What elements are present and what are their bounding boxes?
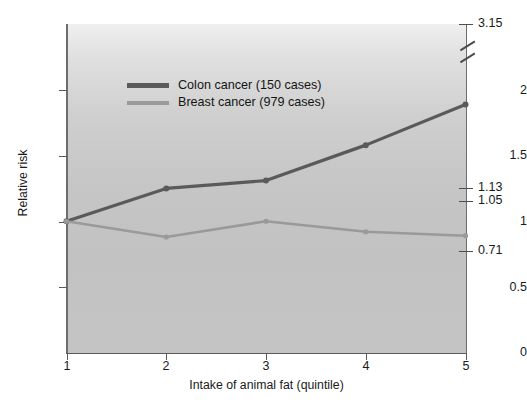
y-tick-label-1: 1 [475, 215, 527, 228]
y-tick-0p5 [59, 287, 67, 288]
y-axis-title: Relative risk [16, 118, 30, 248]
right-tick-1p13 [459, 188, 473, 189]
y-tick-1p5 [59, 156, 67, 157]
x-tick-label-1: 1 [52, 360, 82, 373]
chart-legend: Colon cancer (150 cases) Breast cancer (… [127, 77, 325, 111]
right-label-0p71: 0.71 [478, 244, 502, 257]
legend-item-colon: Colon cancer (150 cases) [127, 77, 325, 94]
right-tick-1p05 [459, 201, 473, 202]
y-tick-label-0p5: 0.5 [475, 281, 527, 294]
legend-label-colon: Colon cancer (150 cases) [178, 79, 322, 92]
legend-swatch-breast-icon [127, 101, 169, 105]
y-tick-label-2: 2 [475, 84, 527, 97]
legend-item-breast: Breast cancer (979 cases) [127, 94, 325, 111]
y-tick-label-0: 0 [475, 346, 527, 359]
y-axis-line [66, 24, 68, 354]
right-label-3p15: 3.15 [478, 17, 502, 30]
plot-area [67, 24, 466, 353]
x-tick-label-4: 4 [351, 360, 381, 373]
chart-figure: 2 1.5 1 0.5 0 1 2 3 4 5 Relative risk In… [0, 0, 527, 410]
legend-label-breast: Breast cancer (979 cases) [178, 96, 325, 109]
y-tick-1 [59, 222, 67, 223]
right-label-1p13: 1.13 [478, 181, 502, 194]
legend-swatch-colon-icon [127, 83, 169, 88]
y-tick-label-1p5: 1.5 [475, 149, 527, 162]
x-axis-title: Intake of animal fat (quintile) [67, 378, 466, 392]
x-tick-label-3: 3 [251, 360, 281, 373]
y-tick-2 [59, 90, 67, 91]
x-tick-label-2: 2 [151, 360, 181, 373]
right-label-1p05: 1.05 [478, 194, 502, 207]
right-tick-3p15 [459, 24, 473, 25]
x-tick-label-5: 5 [451, 360, 481, 373]
right-tick-0p71 [459, 251, 473, 252]
